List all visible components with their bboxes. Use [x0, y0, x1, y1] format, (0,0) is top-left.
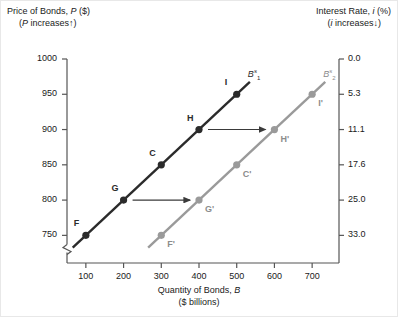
data-point-H: [195, 126, 202, 133]
data-point-H-prime: [271, 126, 278, 133]
curve-label-B2s: Bs2: [323, 68, 335, 81]
bond-market-chart: Price of Bonds, P ($) (P increases↑) Int…: [0, 0, 398, 317]
shift-arrows-group: [133, 130, 266, 201]
plot-canvas: [1, 1, 398, 317]
y-left-tick-label: 750: [23, 229, 57, 239]
series-group: [73, 82, 326, 248]
x-tick-label: 400: [179, 271, 219, 281]
y-right-tick-label: 25.0: [348, 194, 382, 204]
x-tick-label: 200: [104, 271, 144, 281]
curve-label-superscript: s: [329, 68, 332, 74]
point-label-G-prime: G': [205, 204, 214, 214]
point-label-F-prime: F': [167, 239, 175, 249]
point-label-C: C: [149, 148, 156, 158]
y-right-tick-label: 33.0: [348, 229, 382, 239]
x-tick-label: 100: [66, 271, 106, 281]
data-point-C-prime: [233, 161, 240, 168]
data-point-G-prime: [195, 196, 202, 203]
point-label-H: H: [187, 113, 194, 123]
data-point-G: [120, 196, 127, 203]
y-right-tick-label: 17.6: [348, 159, 382, 169]
curve-label-superscript: s: [254, 68, 257, 74]
point-label-F: F: [74, 218, 80, 228]
y-right-tick-label: 0.0: [348, 53, 382, 63]
x-tick-label: 300: [141, 271, 181, 281]
y-left-tick-label: 800: [23, 194, 57, 204]
y-left-tick-label: 950: [23, 88, 57, 98]
data-point-F: [82, 232, 89, 239]
point-label-I: I: [225, 77, 228, 87]
axes-group: [62, 59, 344, 268]
y-left-tick-label: 900: [23, 124, 57, 134]
y-right-tick-label: 11.1: [348, 124, 382, 134]
curve-label-subscript: 2: [332, 75, 335, 81]
point-label-H-prime: H': [280, 134, 289, 144]
data-point-C: [158, 161, 165, 168]
y-left-tick-label: 1000: [23, 53, 57, 63]
data-point-I: [233, 91, 240, 98]
data-point-F-prime: [158, 232, 165, 239]
point-label-I-prime: I': [318, 98, 323, 108]
y-left-tick-label: 850: [23, 159, 57, 169]
point-label-G: G: [112, 183, 119, 193]
y-right-tick-label: 5.3: [348, 88, 382, 98]
curve-label-B1s: Bs1: [248, 68, 260, 81]
point-label-C-prime: C': [243, 169, 252, 179]
x-tick-label: 500: [217, 271, 257, 281]
x-tick-label: 700: [292, 271, 332, 281]
data-point-I-prime: [309, 91, 316, 98]
x-tick-label: 600: [254, 271, 294, 281]
curve-label-subscript: 1: [257, 75, 260, 81]
